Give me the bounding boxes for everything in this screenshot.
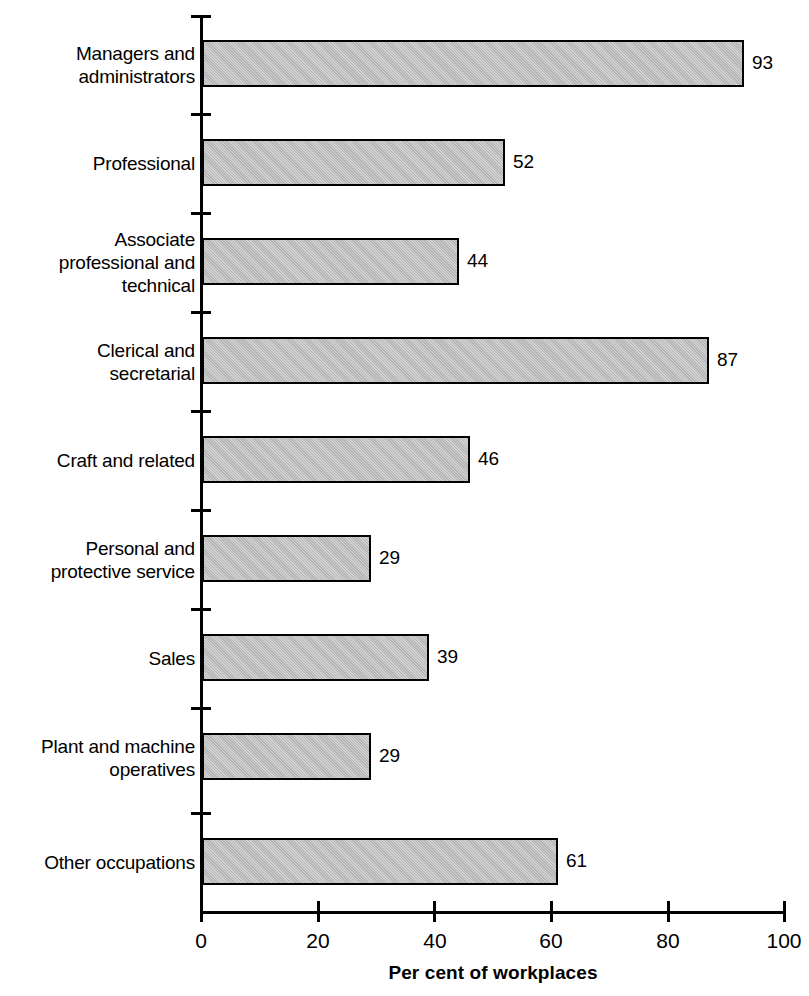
bar-row: Sales 39: [0, 632, 809, 730]
bar-row: Plant and machine operatives 29: [0, 731, 809, 829]
x-axis-tick-label: 0: [166, 928, 236, 953]
bar[interactable]: [202, 535, 371, 582]
category-label: Personal and protective service: [0, 537, 195, 583]
bar-value-label: 52: [513, 151, 534, 173]
bar-value-label: 29: [379, 745, 400, 767]
bar[interactable]: [202, 337, 709, 384]
bar[interactable]: [202, 139, 505, 186]
bar-row: Professional 52: [0, 137, 809, 235]
bar-chart: Managers and administrators 93 Professio…: [0, 0, 809, 996]
category-label: Other occupations: [0, 851, 195, 874]
bar[interactable]: [202, 634, 429, 681]
bar-row: Craft and related 46: [0, 434, 809, 532]
bar[interactable]: [202, 40, 744, 87]
bar-row: Managers and administrators 93: [0, 38, 809, 136]
bar-value-label: 44: [467, 250, 488, 272]
bar-value-label: 46: [478, 448, 499, 470]
category-label: Clerical and secretarial: [0, 339, 195, 385]
bar-row: Clerical and secretarial 87: [0, 335, 809, 433]
bar-row: Associate professional and technical 44: [0, 236, 809, 334]
bar-value-label: 39: [437, 646, 458, 668]
x-axis-tick-label: 40: [400, 928, 470, 953]
x-axis-tick-label: 60: [516, 928, 586, 953]
bar-value-label: 61: [566, 850, 587, 872]
bar-value-label: 87: [717, 349, 738, 371]
bar[interactable]: [202, 238, 459, 285]
bar-value-label: 93: [752, 52, 773, 74]
bar-value-label: 29: [379, 547, 400, 569]
category-label: Managers and administrators: [0, 42, 195, 88]
category-label: Sales: [0, 647, 195, 670]
category-label: Plant and machine operatives: [0, 735, 195, 781]
x-axis-tick-label: 100: [749, 928, 809, 953]
bar[interactable]: [202, 436, 470, 483]
y-axis-tick: [191, 15, 211, 18]
category-label: Associate professional and technical: [0, 228, 195, 297]
x-axis-tick-label: 80: [633, 928, 703, 953]
x-axis-tick-label: 20: [283, 928, 353, 953]
category-label: Craft and related: [0, 449, 195, 472]
category-label: Professional: [0, 152, 195, 175]
x-axis-title: Per cent of workplaces: [200, 962, 786, 984]
bar[interactable]: [202, 733, 371, 780]
bar-row: Personal and protective service 29: [0, 533, 809, 631]
plot-area: Managers and administrators 93 Professio…: [0, 0, 809, 996]
bar-row: Other occupations 61: [0, 836, 809, 934]
bar[interactable]: [202, 838, 558, 885]
